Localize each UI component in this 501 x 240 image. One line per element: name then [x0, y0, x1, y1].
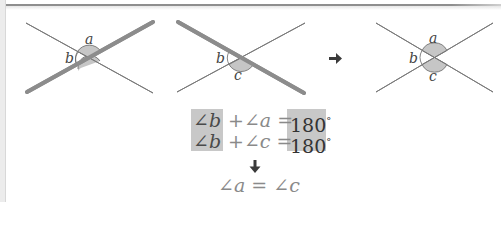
- equation-line-2-left: ∠b: [193, 131, 221, 152]
- degree-symbol: °: [326, 136, 331, 147]
- panel-1-label-a: a: [85, 31, 93, 47]
- equation-line-1-left: ∠b: [193, 110, 221, 131]
- arrow-down-icon: [248, 160, 262, 174]
- equation-line-2-right: 180°: [290, 131, 331, 157]
- panel-2-label-c: c: [234, 67, 242, 83]
- panel-3-label-a: a: [429, 30, 437, 46]
- panel-2-label-b: b: [216, 50, 225, 66]
- equation-line-1-middle: +∠a =: [228, 110, 293, 131]
- conclusion-equation: ∠a = ∠c: [218, 175, 300, 196]
- panel-1-label-b: b: [65, 50, 74, 66]
- arrow-right-icon: [329, 53, 342, 64]
- equation-line-2-middle: +∠c =: [228, 131, 292, 152]
- equation-line-2-value: 180: [290, 135, 326, 157]
- panel-3-angle-b: [420, 51, 422, 65]
- degree-symbol: °: [326, 115, 331, 126]
- panel-3-label-c: c: [429, 68, 437, 84]
- panel-3-label-b: b: [409, 50, 418, 66]
- panel-2-angle-b: [227, 52, 229, 65]
